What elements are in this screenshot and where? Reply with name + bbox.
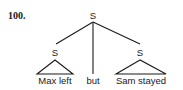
edge-root-right xyxy=(93,22,140,44)
leaf-sam-stayed: Sam stayed xyxy=(116,75,166,86)
right-triangle xyxy=(116,60,166,74)
left-triangle xyxy=(37,60,73,74)
edge-root-left xyxy=(56,22,93,44)
leaf-but: but xyxy=(86,75,100,86)
root-node-label: S xyxy=(90,10,96,21)
leaf-max-left: Max left xyxy=(38,75,72,86)
left-s-node-label: S xyxy=(52,47,58,58)
right-s-node-label: S xyxy=(137,47,143,58)
syntax-tree: S S Max left but S Sam stayed xyxy=(0,0,183,90)
